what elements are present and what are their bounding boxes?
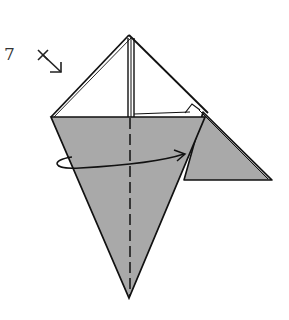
main-kite: [51, 117, 205, 298]
origami-diagram: [0, 0, 289, 320]
turn-over-diagonal-arrow-icon: [38, 50, 61, 72]
top-triangle: [51, 35, 208, 117]
